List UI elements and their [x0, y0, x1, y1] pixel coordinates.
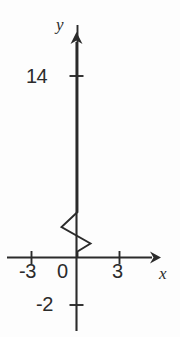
x-axis-label: x — [159, 265, 167, 282]
origin-label: 0 — [57, 261, 68, 281]
plot-canvas — [0, 0, 180, 337]
y-axis-label: y — [56, 16, 64, 33]
graph-figure: y x 14 -2 -3 0 3 — [0, 0, 180, 337]
y-tick-label-14: 14 — [26, 66, 47, 86]
x-tick-label-neg3: -3 — [19, 261, 36, 281]
x-tick-label-3: 3 — [112, 261, 123, 281]
y-tick-label-neg2: -2 — [36, 294, 53, 314]
